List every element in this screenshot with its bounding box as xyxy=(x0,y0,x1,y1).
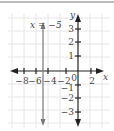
x-axis xyxy=(14,68,100,74)
svg-text:−6: −6 xyxy=(28,76,42,86)
line-annotation: x = −5 xyxy=(30,20,62,30)
svg-text:−8: −8 xyxy=(15,76,29,86)
svg-text:2: 2 xyxy=(89,76,95,86)
svg-text:−3: −3 xyxy=(61,107,75,117)
x-axis-label: x xyxy=(103,72,108,82)
svg-text:−1: −1 xyxy=(61,83,74,93)
graph: x = −5 y x −8 −6 −4 −2 0 2 3 2 1 −1 −2 −… xyxy=(0,0,114,131)
svg-text:2: 2 xyxy=(68,37,74,47)
y-axis-label: y xyxy=(69,10,76,20)
svg-text:1: 1 xyxy=(68,51,74,61)
svg-text:−2: −2 xyxy=(61,93,74,103)
svg-text:−4: −4 xyxy=(43,76,57,86)
svg-text:3: 3 xyxy=(68,24,74,34)
x-axis-left-arrow-icon xyxy=(10,68,18,74)
svg-text:0: 0 xyxy=(71,73,77,83)
coordinate-plane: x = −5 y x −8 −6 −4 −2 0 2 3 2 1 −1 −2 −… xyxy=(0,0,114,131)
